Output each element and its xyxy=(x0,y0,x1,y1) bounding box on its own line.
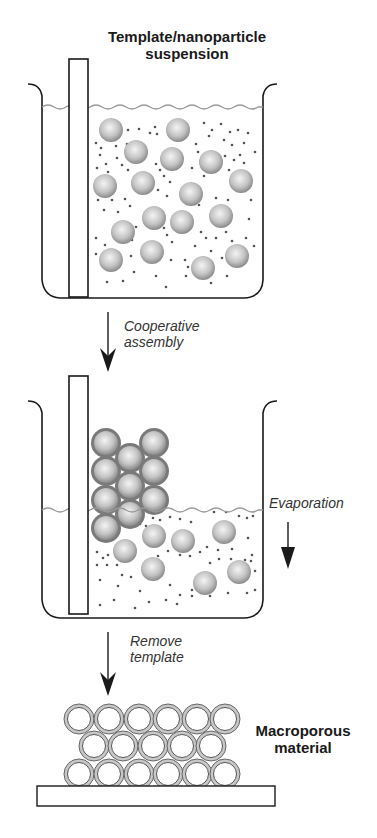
template-sphere xyxy=(93,174,117,198)
substrate-base xyxy=(37,786,275,806)
template-sphere xyxy=(99,118,123,142)
nanoparticle-dot xyxy=(229,131,232,134)
template-sphere xyxy=(142,206,166,230)
nanoparticle-dot xyxy=(208,135,211,138)
nanoparticle-dot xyxy=(209,562,212,565)
template-sphere xyxy=(118,502,142,526)
template-sphere xyxy=(118,474,142,498)
nanoparticle-dot xyxy=(227,199,230,202)
nanoparticle-dot xyxy=(130,576,133,579)
nanoparticle-dot xyxy=(251,554,254,557)
macropore xyxy=(112,735,135,758)
nanoparticle-dot xyxy=(248,218,251,221)
nanoparticle-dot xyxy=(127,169,130,172)
nanoparticle-dot xyxy=(130,255,133,258)
nanoparticle-dot xyxy=(134,607,137,610)
nanoparticle-dot xyxy=(96,564,99,567)
nanoparticle-dot xyxy=(107,554,110,557)
template-sphere xyxy=(142,524,166,548)
nanoparticle-dot xyxy=(254,589,257,592)
nanoparticle-dot xyxy=(213,511,216,514)
macropore xyxy=(186,763,209,786)
macropore xyxy=(68,708,91,731)
macroporous-material xyxy=(37,704,275,806)
substrate-slide-2 xyxy=(69,376,88,614)
nanoparticle-dot xyxy=(107,171,110,174)
nanoparticle-dot xyxy=(210,282,213,285)
nanoparticle-dot xyxy=(176,603,179,606)
template-sphere xyxy=(209,204,233,228)
template-sphere xyxy=(225,244,249,268)
macropore xyxy=(83,735,106,758)
nanoparticle-dot xyxy=(95,142,98,145)
nanoparticle-dot xyxy=(203,122,206,125)
step2-line2: template xyxy=(130,649,184,665)
nanoparticle-dot xyxy=(223,139,226,142)
nanoparticle-dot xyxy=(197,151,200,154)
nanoparticle-dot xyxy=(237,129,240,132)
macropore xyxy=(171,735,194,758)
nanoparticle-dot xyxy=(133,271,136,274)
nanoparticle-dot xyxy=(169,516,172,519)
nanoparticle-dot xyxy=(166,234,169,237)
nanoparticle-dot xyxy=(194,245,197,248)
nanoparticle-dot xyxy=(117,585,120,588)
nanoparticle-dot xyxy=(190,521,193,524)
nanoparticle-dot xyxy=(227,592,230,595)
template-sphere xyxy=(142,459,166,483)
macropore xyxy=(214,763,237,786)
nanoparticle-dot xyxy=(185,275,188,278)
nanoparticle-dot xyxy=(231,548,234,551)
nanoparticle-dot xyxy=(179,594,182,597)
template-sphere xyxy=(179,182,203,206)
nanoparticle-dot xyxy=(195,143,198,146)
nanoparticle-dot xyxy=(226,275,229,278)
nanoparticle-dot xyxy=(233,159,236,162)
nanoparticle-dot xyxy=(169,584,172,587)
nanoparticle-dot xyxy=(218,558,221,561)
nanoparticle-dot xyxy=(253,245,256,248)
nanoparticle-dot xyxy=(105,163,108,166)
nanoparticle-dot xyxy=(163,227,166,230)
nanoparticle-dot xyxy=(106,564,109,567)
macropore xyxy=(200,735,223,758)
nanoparticle-dot xyxy=(243,142,246,145)
nanoparticle-dot xyxy=(165,286,168,289)
macropore xyxy=(128,763,151,786)
template-sphere xyxy=(99,248,123,272)
template-sphere xyxy=(131,171,155,195)
beaker-assembly xyxy=(28,376,277,618)
macropore xyxy=(157,763,180,786)
macropore xyxy=(186,708,209,731)
nanoparticle-dot xyxy=(215,197,218,200)
macroporous-material-label: Macroporous material xyxy=(242,722,364,757)
nanoparticle-dot xyxy=(96,551,99,554)
step1-line1: Cooperative xyxy=(124,318,200,334)
nanoparticle-dot xyxy=(250,560,253,563)
template-sphere xyxy=(141,557,165,581)
evaporation-text: Evaporation xyxy=(269,495,344,511)
nanoparticle-dot xyxy=(99,154,102,157)
nanoparticle-dot xyxy=(97,199,100,202)
macropore xyxy=(68,763,91,786)
suspension-label: Template/nanoparticle suspension xyxy=(92,28,282,63)
template-sphere xyxy=(171,529,195,553)
nanoparticle-dot xyxy=(246,592,249,595)
nanoparticle-dot xyxy=(163,175,166,178)
diagram-canvas xyxy=(0,0,377,838)
beaker-suspension xyxy=(28,59,277,298)
nanoparticle-dot xyxy=(247,132,250,135)
template-sphere xyxy=(191,256,215,280)
nanoparticle-dot xyxy=(230,558,233,561)
nanoparticle-dot xyxy=(95,253,98,256)
nanoparticle-dot xyxy=(254,151,257,154)
nanoparticle-dot xyxy=(154,126,157,129)
product-line2: material xyxy=(242,739,364,756)
template-sphere xyxy=(124,140,148,164)
template-sphere xyxy=(170,210,194,234)
nanoparticle-dot xyxy=(254,570,257,573)
nanoparticle-dot xyxy=(121,574,124,577)
template-sphere xyxy=(113,539,137,563)
nanoparticle-dot xyxy=(135,226,138,229)
step1-line2: assembly xyxy=(124,334,200,350)
